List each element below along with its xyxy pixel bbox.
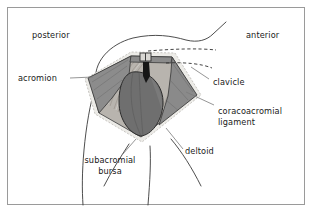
- label-anterior: anterior: [246, 30, 279, 41]
- label-subacromial-bursa: subacromial bursa: [72, 155, 148, 176]
- label-acromion: acromion: [18, 73, 57, 84]
- leader-deltoid: [166, 128, 183, 149]
- leader-subacromial-bursa: [122, 139, 136, 155]
- anatomy-figure: posterior anterior acromion clavicle cor…: [0, 0, 313, 214]
- label-coracoacromial-ligament: coracoacromial ligament: [218, 106, 282, 127]
- label-posterior: posterior: [32, 30, 70, 41]
- label-deltoid: deltoid: [185, 146, 214, 157]
- leader-clavicle: [191, 67, 209, 79]
- label-clavicle: clavicle: [213, 77, 245, 88]
